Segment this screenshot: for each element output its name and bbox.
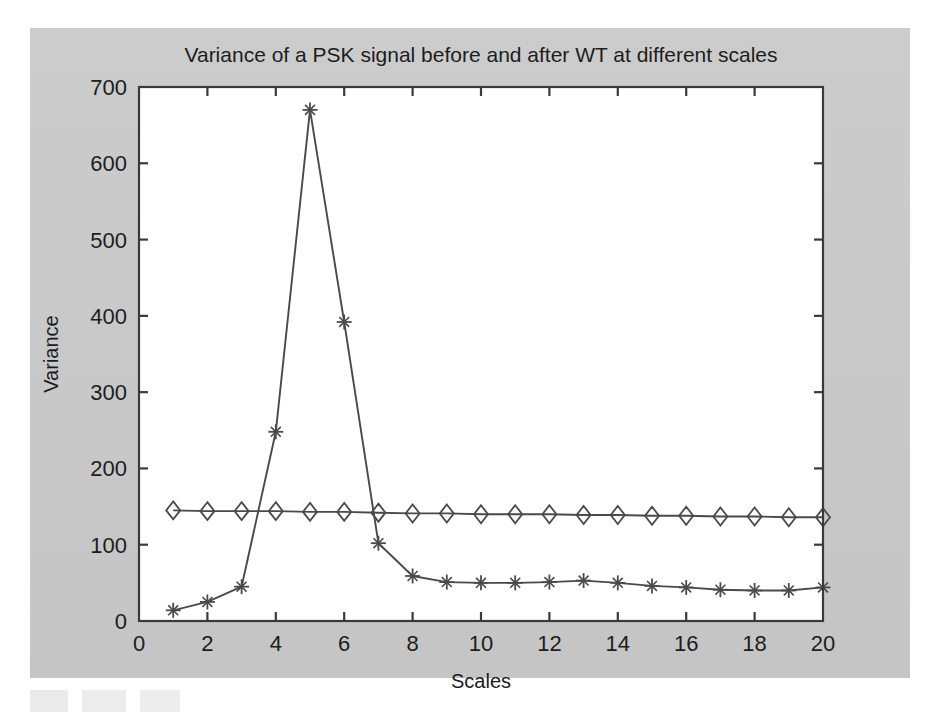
x-axis-label: Scales	[451, 670, 511, 692]
x-tick-label: 12	[537, 631, 561, 656]
y-tick-label: 500	[90, 228, 127, 253]
y-tick-label: 700	[90, 75, 127, 100]
x-axis-tick-labels: 02468101214161820	[133, 631, 835, 656]
plot-area	[139, 87, 823, 621]
x-tick-label: 2	[201, 631, 213, 656]
x-tick-label: 10	[469, 631, 493, 656]
x-tick-label: 4	[270, 631, 282, 656]
x-tick-label: 16	[674, 631, 698, 656]
x-tick-label: 0	[133, 631, 145, 656]
y-tick-label: 600	[90, 151, 127, 176]
y-axis-tick-labels: 0100200300400500600700	[90, 75, 127, 634]
x-tick-label: 14	[606, 631, 630, 656]
x-tick-label: 6	[338, 631, 350, 656]
y-tick-label: 0	[115, 609, 127, 634]
x-tick-label: 20	[811, 631, 835, 656]
y-tick-label: 100	[90, 533, 127, 558]
y-axis-label: Variance	[40, 315, 62, 392]
page-canvas: 02468101214161820 0100200300400500600700…	[0, 0, 941, 720]
variance-line-chart: 02468101214161820 0100200300400500600700…	[0, 0, 941, 720]
y-tick-label: 400	[90, 304, 127, 329]
y-tick-label: 300	[90, 380, 127, 405]
y-tick-label: 200	[90, 456, 127, 481]
x-tick-label: 8	[406, 631, 418, 656]
x-tick-label: 18	[742, 631, 766, 656]
chart-title: Variance of a PSK signal before and afte…	[185, 43, 778, 66]
